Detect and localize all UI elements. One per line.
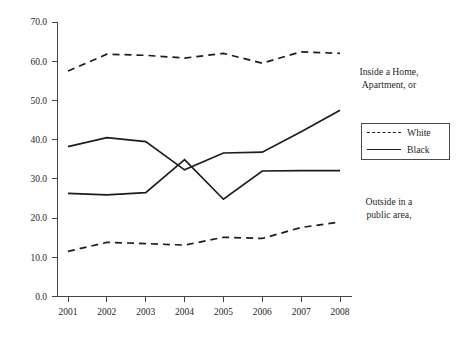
y-axis-tick-label: 30.0 (30, 174, 47, 184)
x-axis-tick-label: 2005 (214, 307, 233, 317)
annotation-inside-home: Inside a Home, Apartment, or (330, 66, 448, 91)
y-axis-tick-label: 40.0 (30, 135, 47, 145)
y-axis-tick-label: 70.0 (30, 17, 47, 27)
legend-label-white: White (402, 127, 431, 138)
annotation-outside-public: Outside in a public area, (330, 196, 448, 221)
x-axis-ticks: 20012002200320042005200620072008 (59, 297, 350, 318)
x-axis-tick-label: 2008 (331, 307, 350, 317)
y-axis-tick-label: 10.0 (30, 253, 47, 263)
x-axis-tick-label: 2006 (253, 307, 272, 317)
line-chart: 0.010.020.030.040.050.060.070.0 20012002… (0, 0, 463, 340)
x-axis-tick-label: 2003 (136, 307, 155, 317)
y-axis-tick-label: 60.0 (30, 57, 47, 67)
chart-series-lines (68, 52, 340, 252)
y-axis-tick-label: 0.0 (35, 292, 47, 302)
x-axis-tick-label: 2002 (97, 307, 116, 317)
chart-legend: White Black (361, 123, 450, 160)
series-line-black-3 (68, 160, 340, 200)
legend-item-black: Black (362, 141, 449, 158)
legend-label-black: Black (402, 144, 430, 155)
x-axis-tick-label: 2001 (59, 307, 78, 317)
legend-swatch-dashed-icon (366, 128, 402, 138)
chart-axes (58, 22, 353, 297)
y-axis-tick-label: 20.0 (30, 213, 47, 223)
legend-swatch-solid-icon (366, 145, 402, 155)
x-axis-tick-label: 2007 (292, 307, 311, 317)
series-line-black-1 (68, 110, 340, 170)
series-line-white-2 (68, 222, 340, 251)
legend-item-white: White (362, 124, 449, 141)
series-line-white-0 (68, 52, 340, 71)
y-axis-ticks: 0.010.020.030.040.050.060.070.0 (30, 17, 57, 302)
chart-plot-area: 0.010.020.030.040.050.060.070.0 20012002… (0, 0, 463, 340)
x-axis-tick-label: 2004 (175, 307, 194, 317)
y-axis-tick-label: 50.0 (30, 96, 47, 106)
